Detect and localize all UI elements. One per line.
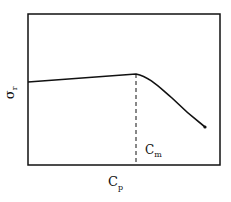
chart-canvas [0,0,231,202]
data-line [28,74,205,127]
y-axis-label: σr [2,86,20,99]
end-point [203,125,206,128]
x-axis-label: Cp [108,174,123,192]
plot-frame [28,14,220,165]
cm-annotation: Cm [145,143,162,159]
